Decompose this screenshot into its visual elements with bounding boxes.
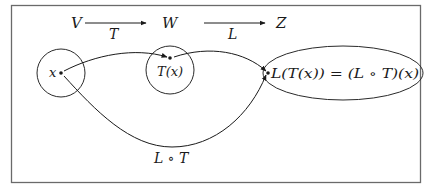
point-x-label: x	[49, 65, 57, 80]
point-x-dot	[59, 71, 63, 75]
space-label-w: W	[162, 14, 179, 32]
result-label: L(T(x)) = (L ∘ T)(x)	[270, 66, 419, 81]
space-label-v: V	[71, 14, 84, 32]
point-ltx-dot	[266, 71, 270, 75]
space-label-z: Z	[275, 14, 287, 32]
map-label-t: T	[109, 26, 120, 42]
composition-label: L ∘ T	[153, 150, 190, 166]
map-label-l: L	[227, 26, 237, 42]
arrow-composition	[64, 75, 266, 147]
composition-diagram: W --L--> Z --> V T W L Z x T(x) L(T(x)) …	[0, 0, 429, 190]
point-tx-dot	[168, 56, 172, 60]
point-tx-label: T(x)	[157, 64, 183, 79]
